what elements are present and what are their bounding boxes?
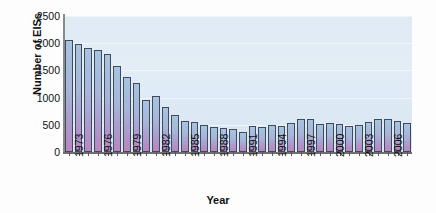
x-tick-label: 1973 bbox=[73, 134, 85, 157]
x-tick-label: 1982 bbox=[160, 134, 172, 157]
bar bbox=[171, 115, 179, 152]
bar bbox=[355, 125, 363, 152]
bar bbox=[239, 132, 247, 152]
x-tick-label: 2006 bbox=[392, 134, 404, 157]
x-tick-label: 1976 bbox=[102, 134, 114, 157]
bar bbox=[113, 66, 121, 152]
chart-figure: Number of EISs 05001000150020002500 1973… bbox=[0, 0, 436, 213]
x-tick-label: 2000 bbox=[334, 134, 346, 157]
bar bbox=[268, 125, 276, 152]
y-axis-tick-labels: 05001000150020002500 bbox=[20, 0, 60, 213]
bar bbox=[229, 129, 237, 152]
x-tick-label: 1979 bbox=[131, 134, 143, 157]
bar bbox=[84, 48, 92, 152]
x-tick-label: 1994 bbox=[276, 134, 288, 157]
bar bbox=[287, 123, 295, 152]
bar bbox=[316, 124, 324, 152]
x-tick-label: 1988 bbox=[218, 134, 230, 157]
bar bbox=[123, 77, 131, 152]
bar bbox=[200, 125, 208, 152]
y-tick-label: 1500 bbox=[20, 64, 60, 76]
y-tick-label: 2500 bbox=[20, 10, 60, 22]
x-tick-label: 1985 bbox=[189, 134, 201, 157]
bar bbox=[345, 126, 353, 152]
bar bbox=[210, 127, 218, 152]
x-axis-title: Year bbox=[0, 194, 436, 206]
x-tick-label: 1997 bbox=[305, 134, 317, 157]
bar bbox=[65, 40, 73, 152]
y-tick-label: 1000 bbox=[20, 92, 60, 104]
bar bbox=[152, 96, 160, 152]
bar bbox=[258, 127, 266, 152]
y-tick-label: 0 bbox=[20, 146, 60, 158]
bar bbox=[384, 119, 392, 152]
bar bbox=[297, 119, 305, 152]
bar bbox=[142, 100, 150, 152]
y-tick-label: 2000 bbox=[20, 37, 60, 49]
x-tick-label: 2003 bbox=[363, 134, 375, 157]
bar bbox=[374, 119, 382, 152]
bar bbox=[326, 123, 334, 152]
x-axis-tick-labels: 1973197619791982198519881991199419972000… bbox=[64, 156, 412, 196]
bar bbox=[181, 121, 189, 152]
bar bbox=[403, 123, 411, 152]
bar-series bbox=[64, 16, 412, 152]
x-tick-label: 1991 bbox=[247, 134, 259, 157]
bar bbox=[94, 50, 102, 152]
y-tick-label: 500 bbox=[20, 119, 60, 131]
